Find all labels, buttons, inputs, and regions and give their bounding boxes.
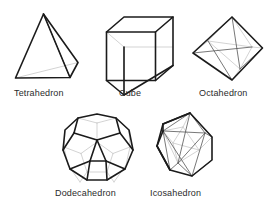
label-icosahedron: Icosahedron xyxy=(150,188,201,198)
label-tetrahedron: Tetrahedron xyxy=(14,88,64,98)
icosahedron-drawing xyxy=(0,0,279,221)
label-cube: Cube xyxy=(119,88,141,98)
platonic-solids-figure: Tetrahedron Cube Octahedron Dodecahedron… xyxy=(0,0,279,221)
label-octahedron: Octahedron xyxy=(199,88,248,98)
label-dodecahedron: Dodecahedron xyxy=(55,188,116,198)
